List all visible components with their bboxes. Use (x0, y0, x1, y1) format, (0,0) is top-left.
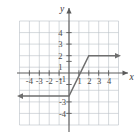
y-axis-arrow (66, 8, 71, 14)
x-axis-arrow (123, 70, 129, 75)
function-right-arrow (115, 53, 121, 59)
x-tick-label-3: 3 (97, 76, 101, 86)
x-axis (17, 70, 128, 75)
x-tick-label-4: 4 (107, 76, 112, 86)
graph-figure: -4 -3 -2 -1 1 2 3 4 4 3 2 1 -1 -3 -4 y x (0, 0, 138, 136)
x-tick-label-2: 2 (87, 76, 91, 86)
y-tick-label-neg1: -1 (59, 74, 66, 84)
y-tick-label-3: 3 (58, 39, 62, 49)
y-tick-label-1: 1 (58, 62, 62, 72)
y-axis-label: y (59, 4, 65, 14)
function-left-arrow (17, 93, 23, 99)
y-tick-label-neg3: -3 (59, 97, 66, 107)
x-axis-label: x (128, 72, 134, 82)
x-tick-label-neg2: -2 (46, 76, 53, 86)
x-tick-label-neg4: -4 (26, 76, 34, 86)
y-tick-label-neg4: -4 (59, 109, 67, 119)
x-tick-label-neg3: -3 (36, 76, 43, 86)
y-tick-label-2: 2 (58, 51, 62, 61)
coordinate-plane-svg: -4 -3 -2 -1 1 2 3 4 4 3 2 1 -1 -3 -4 y x (0, 0, 138, 136)
